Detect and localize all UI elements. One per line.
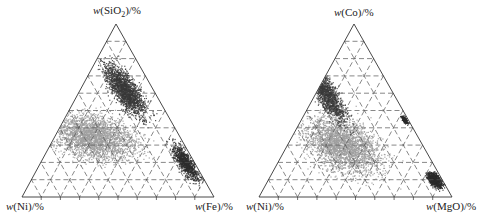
left-bottom-left-label: w(Ni)/%	[6, 200, 44, 212]
ternary-plots	[0, 0, 481, 219]
right-bottom-right-label: w(MgO)/%	[426, 200, 476, 212]
right-bottom-left-label: w(Ni)/%	[246, 200, 284, 212]
left-top-axis-label: w(SiO2)/%	[93, 4, 141, 19]
left-bottom-right-label: w(Fe)/%	[195, 200, 233, 212]
right-top-axis-label: w(Co)/%	[334, 6, 374, 18]
